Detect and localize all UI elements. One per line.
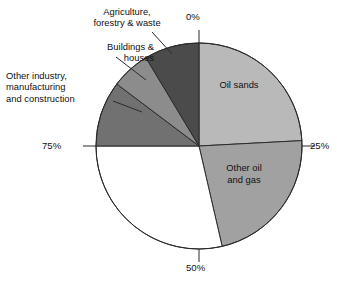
pie-chart: Agriculture, forestry & waste Buildings … <box>0 0 337 287</box>
axis-tick-label-75-percent: 75% <box>42 140 61 151</box>
axis-tick-label-50-percent: 50% <box>186 262 205 273</box>
pie-slice-oil-sands[interactable] <box>199 43 302 146</box>
slice-label-other-oil-and-gas: Other oil and gas <box>204 162 284 185</box>
callout-label-buildings-houses: Buildings & houses <box>52 41 154 64</box>
slice-label-oil-sands: Oil sands <box>196 79 282 91</box>
axis-tick-label-0-percent: 0% <box>186 11 200 22</box>
callout-label-agriculture-forestry-waste: Agriculture, forestry & waste <box>72 6 182 29</box>
callout-label-other-industry-manufacturing-construction: Other industry, manufacturing and constr… <box>6 70 134 104</box>
axis-tick-label-25-percent: 25% <box>310 140 329 151</box>
top-crop-strip <box>0 0 337 5</box>
